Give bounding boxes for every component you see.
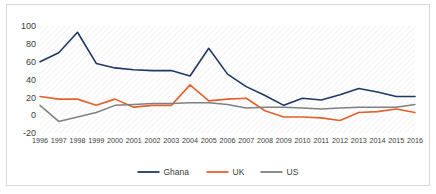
x-tick-label: 2008	[257, 136, 273, 145]
legend-item-us[interactable]: US	[261, 167, 299, 177]
x-tick-label: 2009	[276, 136, 292, 145]
plot-background	[40, 26, 415, 133]
legend-label: Ghana	[164, 167, 190, 177]
x-tick-label: 2013	[351, 136, 367, 145]
legend-label: UK	[233, 167, 245, 177]
y-tick-label: 0	[31, 110, 36, 120]
x-tick-label: 2011	[314, 136, 329, 145]
x-axis-ticks: 1996199719981999200020012002200320042005…	[32, 136, 423, 145]
x-tick-label: 2005	[201, 136, 217, 145]
y-tick-label: 20	[26, 93, 36, 103]
x-tick-label: 2004	[182, 136, 198, 145]
y-tick-label: 80	[26, 39, 36, 49]
line-chart: -20020406080100 199619971998199920002001…	[0, 0, 436, 194]
x-tick-label: 1997	[51, 136, 67, 145]
x-tick-label: 2006	[220, 136, 236, 145]
y-tick-label: 100	[21, 21, 36, 31]
legend-item-ghana[interactable]: Ghana	[138, 167, 190, 177]
y-tick-label: 60	[26, 57, 36, 67]
x-tick-label: 2007	[238, 136, 254, 145]
y-axis-ticks: -20020406080100	[21, 21, 36, 138]
x-tick-label: 2002	[145, 136, 161, 145]
chart-legend: GhanaUKUS	[138, 167, 299, 177]
x-tick-label: 2012	[332, 136, 348, 145]
x-tick-label: 2003	[163, 136, 179, 145]
y-tick-label: 40	[26, 75, 36, 85]
x-tick-label: 2000	[107, 136, 123, 145]
legend-item-uk[interactable]: UK	[207, 167, 245, 177]
legend-label: US	[287, 167, 299, 177]
x-tick-label: 2016	[407, 136, 423, 145]
x-tick-label: 2014	[370, 136, 386, 145]
chart-canvas: -20020406080100 199619971998199920002001…	[0, 0, 436, 194]
x-tick-label: 2001	[126, 136, 142, 145]
x-tick-label: 2015	[388, 136, 404, 145]
x-tick-label: 1998	[70, 136, 86, 145]
x-tick-label: 1999	[88, 136, 104, 145]
x-tick-label: 1996	[32, 136, 48, 145]
x-tick-label: 2010	[295, 136, 311, 145]
